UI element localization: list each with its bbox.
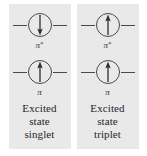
spin-up-arrow-icon [102, 14, 114, 36]
orbital-label-pi-triplet: π [105, 88, 110, 99]
caption-line: state [90, 115, 124, 128]
orbital-line-left-icon [13, 72, 27, 73]
caption-excited-state-singlet: Excited state singlet [22, 102, 56, 141]
orbital-label-superscript: * [40, 41, 44, 48]
orbital-circle-icon [96, 60, 120, 84]
orbital-label-pi-star-singlet: π* [35, 41, 43, 52]
panel-excited-state-triplet: π* π Excited state triplet [77, 4, 139, 149]
orbital-antibonding-singlet [12, 12, 68, 38]
caption-line: triplet [90, 128, 124, 141]
spin-up-arrow-icon [34, 61, 46, 83]
orbital-circle-icon [96, 13, 120, 37]
orbital-line-left-icon [81, 25, 95, 26]
caption-line: state [22, 115, 56, 128]
orbital-line-right-icon [121, 25, 135, 26]
orbital-circle-icon [28, 13, 52, 37]
orbital-line-right-icon [53, 72, 67, 73]
panel-excited-state-singlet: π* π Excited state singlet [9, 4, 71, 149]
orbital-label-superscript: * [108, 41, 112, 48]
orbital-label-symbol: π [105, 88, 110, 97]
caption-excited-state-triplet: Excited state triplet [90, 102, 124, 141]
spin-down-arrow-icon [34, 14, 46, 36]
orbital-line-right-icon [121, 72, 135, 73]
caption-line: Excited [90, 102, 124, 115]
orbital-line-left-icon [81, 72, 95, 73]
molecular-orbital-diagram: π* π Excited state singlet [0, 0, 147, 156]
orbital-circle-icon [28, 60, 52, 84]
orbital-bonding-singlet [12, 59, 68, 85]
caption-line: singlet [22, 128, 56, 141]
orbital-label-pi-singlet: π [37, 88, 42, 99]
orbital-label-pi-star-triplet: π* [103, 41, 111, 52]
orbital-line-left-icon [13, 25, 27, 26]
caption-line: Excited [22, 102, 56, 115]
orbital-antibonding-triplet [80, 12, 136, 38]
orbital-line-right-icon [53, 25, 67, 26]
orbital-label-symbol: π [37, 88, 42, 97]
spin-up-arrow-icon [102, 61, 114, 83]
orbital-bonding-triplet [80, 59, 136, 85]
